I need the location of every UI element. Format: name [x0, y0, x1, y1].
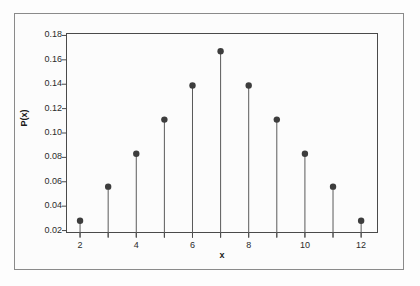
x-tick-label: 12 [356, 241, 366, 250]
figure-canvas: 0.020.040.060.080.100.120.140.160.18 246… [0, 0, 420, 286]
x-tick-label: 2 [78, 241, 83, 250]
x-tick-label: 6 [190, 241, 195, 250]
x-tick-label: 10 [300, 241, 310, 250]
y-axis-title: P(x) [19, 109, 29, 126]
x-tick-label: 8 [246, 241, 251, 250]
x-axis-title: x [219, 250, 224, 260]
x-axis-tick-labels: 24681012 [0, 0, 420, 286]
x-tick-label: 4 [134, 241, 139, 250]
